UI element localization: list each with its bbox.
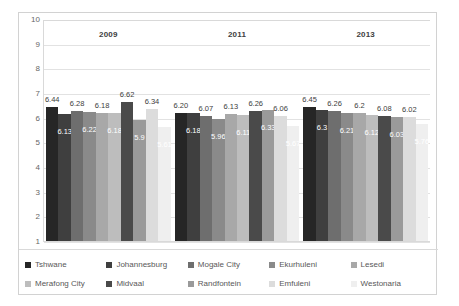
y-tick-label: 8 [20, 65, 40, 73]
bar-slot: 6.18 [187, 20, 199, 241]
bar-slot: 6.34 [146, 20, 158, 241]
bar-slot: 6.33 [262, 20, 274, 241]
legend-row: Merafong CityMidvaalRandfonteinEmfuleniW… [25, 274, 432, 293]
legend-item-johannesburg[interactable]: Johannesburg [106, 260, 187, 269]
y-tick-label: 5 [20, 139, 40, 147]
bar-group: 20096.446.136.286.226.186.186.625.96.345… [44, 20, 173, 241]
bar-slot: 6.18 [108, 20, 120, 241]
legend-label: Westonaria [361, 279, 401, 288]
y-tick-label: 1 [20, 238, 40, 246]
legend-swatch-icon [269, 262, 275, 268]
bar-slot: 5.9 [133, 20, 145, 241]
bar-groups: 20096.446.136.286.226.186.186.625.96.345… [44, 20, 430, 241]
legend-swatch-icon [351, 281, 357, 287]
bars-container: 6.456.36.266.216.26.126.086.036.025.76 [303, 20, 428, 241]
legend-swatch-icon [188, 281, 194, 287]
legend-label: Lesedi [361, 260, 385, 269]
legend-label: Midvaal [116, 279, 144, 288]
bar-slot: 6.62 [121, 20, 133, 241]
y-tick-label: 2 [20, 213, 40, 221]
bar-slot: 6.02 [403, 20, 415, 241]
bar-slot: 5.96 [212, 20, 224, 241]
chart-legend: TshwaneJohannesburgMogale CityEkurhuleni… [19, 249, 438, 294]
legend-item-mogale-city[interactable]: Mogale City [188, 260, 269, 269]
bar-slot: 6.07 [200, 20, 212, 241]
bar-slot: 5.61 [158, 20, 170, 241]
bar-value-label: 5.76 [407, 137, 437, 146]
y-axis: 10987654321 [19, 13, 43, 249]
legend-item-ekurhuleni[interactable]: Ekurhuleni [269, 260, 350, 269]
legend-row: TshwaneJohannesburgMogale CityEkurhuleni… [25, 255, 432, 274]
legend-item-randfontein[interactable]: Randfontein [188, 279, 269, 288]
bars-container: 6.206.186.075.966.136.116.266.336.065.67 [175, 20, 300, 241]
y-tick-label: 6 [20, 115, 40, 123]
bar-slot: 6.13 [58, 20, 70, 241]
bar-emfuleni[interactable] [274, 116, 286, 241]
legend-label: Mogale City [198, 260, 240, 269]
bar-slot: 6.06 [274, 20, 286, 241]
legend-item-midvaal[interactable]: Midvaal [106, 279, 187, 288]
legend-label: Randfontein [198, 279, 241, 288]
legend-swatch-icon [188, 262, 194, 268]
bar-slot: 6.22 [83, 20, 95, 241]
bar-slot: 6.21 [341, 20, 353, 241]
legend-item-lesedi[interactable]: Lesedi [351, 260, 432, 269]
legend-swatch-icon [106, 281, 112, 287]
chart-screenshot: 10987654321 20096.446.136.286.226.186.18… [0, 0, 459, 306]
legend-item-merafong-city[interactable]: Merafong City [25, 279, 106, 288]
y-tick-label: 3 [20, 189, 40, 197]
legend-label: Tshwane [35, 260, 67, 269]
legend-swatch-icon [106, 262, 112, 268]
bar-slot: 6.03 [391, 20, 403, 241]
bar-slot: 5.76 [416, 20, 428, 241]
legend-item-tshwane[interactable]: Tshwane [25, 260, 106, 269]
chart-frame: 10987654321 20096.446.136.286.226.186.18… [18, 12, 437, 295]
bar-group: 20116.206.186.075.966.136.116.266.336.06… [173, 20, 302, 241]
y-tick-label: 4 [20, 164, 40, 172]
legend-swatch-icon [269, 281, 275, 287]
plot-area: 20096.446.136.286.226.186.186.625.96.345… [43, 20, 430, 242]
bar-emfuleni[interactable] [146, 109, 158, 241]
legend-swatch-icon [25, 281, 31, 287]
bar-group: 20136.456.36.266.216.26.126.086.036.025.… [301, 20, 430, 241]
legend-item-emfuleni[interactable]: Emfuleni [269, 279, 350, 288]
y-tick-label: 10 [20, 16, 40, 24]
legend-label: Emfuleni [279, 279, 310, 288]
legend-label: Ekurhuleni [279, 260, 317, 269]
bar-slot: 6.11 [237, 20, 249, 241]
bar-slot: 6.12 [366, 20, 378, 241]
gridline [44, 242, 430, 243]
legend-item-westonaria[interactable]: Westonaria [351, 279, 432, 288]
legend-swatch-icon [351, 262, 357, 268]
bar-midvaal[interactable] [121, 102, 133, 241]
bar-slot: 5.67 [287, 20, 299, 241]
bar-slot: 6.3 [316, 20, 328, 241]
legend-label: Johannesburg [116, 260, 167, 269]
plot-area-wrapper: 10987654321 20096.446.136.286.226.186.18… [19, 13, 438, 249]
legend-label: Merafong City [35, 279, 85, 288]
y-tick-label: 9 [20, 41, 40, 49]
legend-swatch-icon [25, 262, 31, 268]
bars-container: 6.446.136.286.226.186.186.625.96.345.61 [46, 20, 171, 241]
